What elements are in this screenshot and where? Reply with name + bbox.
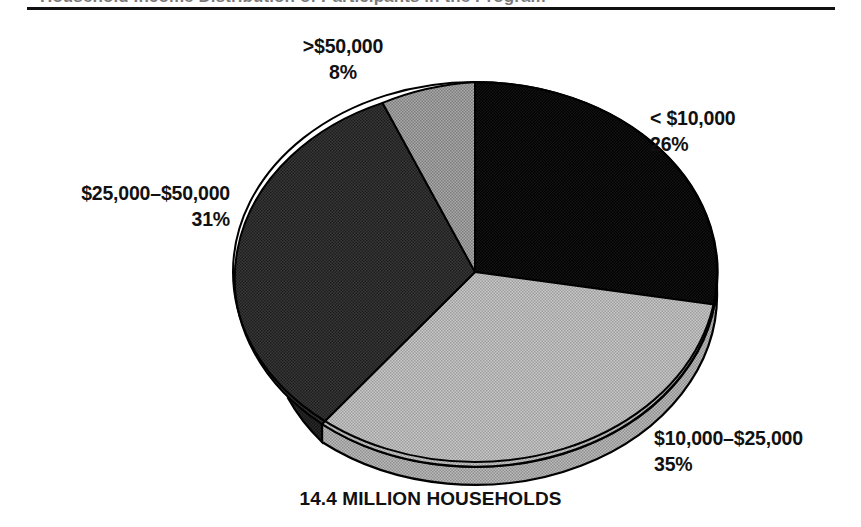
chart-caption: 14.4 MILLION HOUSEHOLDS [0,488,861,510]
slice-label-25k-to-50k-range: $25,000–$50,000 [81,182,230,204]
slice-label-25k-to-50k: $25,000–$50,000 31% [15,180,230,232]
slice-label-10k-to-25k: $10,000–$25,000 35% [654,425,803,477]
slice-label-10k-to-25k-percent: 35% [654,451,803,477]
slice-label-under-10k-range: < $10,000 [650,107,736,129]
pie-chart-figure: Household Income Distribution of Partici… [0,0,861,527]
slice-label-25k-to-50k-percent: 31% [15,206,230,232]
slice-label-over-50k-percent: 8% [248,59,438,85]
slice-label-under-10k: < $10,000 26% [650,105,736,157]
slice-label-under-10k-percent: 26% [650,131,736,157]
slice-label-10k-to-25k-range: $10,000–$25,000 [654,427,803,449]
slice-label-over-50k-range: >$50,000 [303,35,383,57]
slice-label-over-50k: >$50,000 8% [248,33,438,85]
